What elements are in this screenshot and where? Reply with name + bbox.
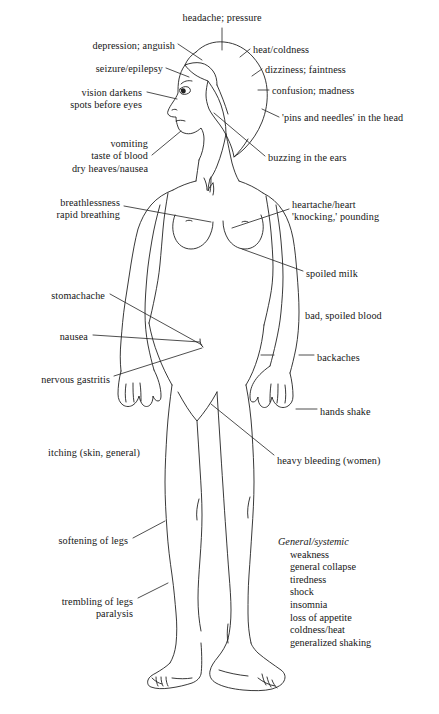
- head-group: [168, 42, 268, 160]
- hair-outline: [185, 42, 267, 157]
- callout-heat-coldness: heat/coldness: [253, 44, 309, 56]
- eyebrow: [181, 81, 192, 84]
- callout-nausea: nausea: [60, 331, 88, 343]
- callout-dizziness: dizziness; faintness: [265, 64, 346, 76]
- general-systemic-item: generalized shaking: [290, 637, 371, 650]
- callout-itching: itching (skin, general): [48, 447, 140, 459]
- callout-spoiled-blood: bad, spoiled blood: [305, 310, 382, 322]
- callout-hands-shake: hands shake: [320, 406, 371, 418]
- nipple-right: [242, 221, 248, 222]
- leader-nervous-gastritis: [114, 348, 202, 376]
- callout-depression: depression; anguish: [92, 40, 175, 52]
- left-finger-1: [125, 384, 126, 402]
- callout-pins-needles: 'pins and needles' in the head: [282, 112, 403, 124]
- right-toe-line-3: [272, 680, 277, 688]
- neck-back: [226, 134, 239, 181]
- callout-headache: headache; pressure: [182, 12, 261, 24]
- leader-breathlessness: [124, 206, 211, 222]
- general-systemic-item: shock: [290, 586, 371, 599]
- left-toe-line-2: [161, 677, 163, 686]
- leader-buzzing: [214, 113, 265, 156]
- hair-bun-edge: [234, 139, 248, 157]
- general-systemic-item: tiredness: [290, 574, 371, 587]
- left-finger-3: [140, 383, 141, 401]
- nipple-left: [186, 220, 192, 221]
- left-finger-2: [133, 383, 134, 402]
- face-profile: [168, 65, 204, 160]
- mouth-line: [176, 120, 185, 121]
- callout-heavy-bleeding: heavy bleeding (women): [277, 455, 380, 467]
- callout-heartache: heartache/heart 'knocking,' pounding: [292, 199, 379, 224]
- callout-trembling-legs: trembling of legs paralysis: [62, 596, 133, 621]
- nostril: [172, 109, 177, 110]
- left-arm-inner: [145, 205, 160, 370]
- torso-group: [120, 190, 299, 385]
- breast-right: [223, 215, 263, 249]
- left-knee: [197, 499, 199, 520]
- collarbone-left: [173, 181, 196, 190]
- symptom-diagram: headache; pressuredepression; anguishsei…: [0, 0, 439, 714]
- eye-pupil: [181, 88, 186, 93]
- callout-seizure: seizure/epilepsy: [96, 63, 163, 75]
- leader-seizure: [166, 68, 189, 77]
- left-hand: [118, 370, 161, 407]
- leader-softening-legs: [133, 521, 165, 538]
- left-toe-line-3: [166, 677, 168, 686]
- callout-backaches: backaches: [317, 352, 360, 364]
- right-finger-3: [270, 384, 271, 402]
- leader-trembling-legs: [138, 583, 168, 598]
- callout-vomiting: vomiting taste of blood dry heaves/nause…: [72, 138, 148, 175]
- general-systemic-list: weaknessgeneral collapsetirednessshockin…: [278, 549, 371, 650]
- callout-breathlessness: breathlessness rapid breathing: [57, 197, 120, 222]
- right-finger-1: [285, 385, 286, 403]
- left-leg-outer: [165, 385, 177, 663]
- leader-dizziness: [252, 69, 262, 76]
- right-torso-side: [264, 196, 273, 325]
- leader-vision: [147, 92, 177, 99]
- leader-heartache: [232, 209, 289, 228]
- right-hand: [250, 366, 293, 408]
- right-toe-line-2: [267, 677, 271, 687]
- callout-nervous-gastritis: nervous gastritis: [41, 374, 110, 386]
- general-systemic-item: coldness/heat: [290, 624, 371, 637]
- hair-strand-1: [208, 81, 226, 134]
- neck-front: [196, 160, 199, 181]
- breast-left: [173, 215, 213, 249]
- right-foot-arch: [219, 670, 248, 676]
- hair-tip-2: [213, 183, 214, 195]
- general-systemic-item: loss of appetite: [290, 612, 371, 625]
- right-leg-inner: [217, 392, 231, 639]
- leader-vomiting: [152, 131, 181, 155]
- general-systemic-heading: General/systemic: [278, 536, 371, 549]
- callout-stomachache: stomachache: [51, 290, 105, 302]
- crotch: [178, 392, 217, 421]
- right-finger-2: [277, 384, 278, 403]
- left-foot-arch: [172, 678, 192, 679]
- general-systemic-block: General/systemic weaknessgeneral collaps…: [278, 536, 371, 649]
- collarbone-right: [239, 181, 263, 193]
- right-knee: [248, 497, 250, 518]
- callout-spoiled-milk: spoiled milk: [306, 268, 358, 280]
- general-systemic-item: weakness: [290, 549, 371, 562]
- hairline: [185, 63, 217, 85]
- hair-back-fall: [210, 134, 226, 179]
- legs-group: [148, 385, 285, 691]
- sternum-notch: [204, 178, 207, 190]
- callout-softening-legs: softening of legs: [58, 535, 128, 547]
- callout-confusion: confusion; madness: [272, 85, 354, 97]
- general-systemic-item: insomnia: [290, 599, 371, 612]
- general-systemic-item: general collapse: [290, 561, 371, 574]
- left-hip-contour: [149, 323, 172, 385]
- right-toe-line-1: [262, 674, 266, 685]
- hands-group: [118, 366, 293, 408]
- callout-buzzing-ears: buzzing in the ears: [268, 152, 347, 164]
- callout-vision: vision darkens spots before eyes: [70, 87, 142, 112]
- left-leg-inner: [197, 421, 202, 631]
- navel: [200, 339, 203, 347]
- leader-depression: [178, 44, 202, 60]
